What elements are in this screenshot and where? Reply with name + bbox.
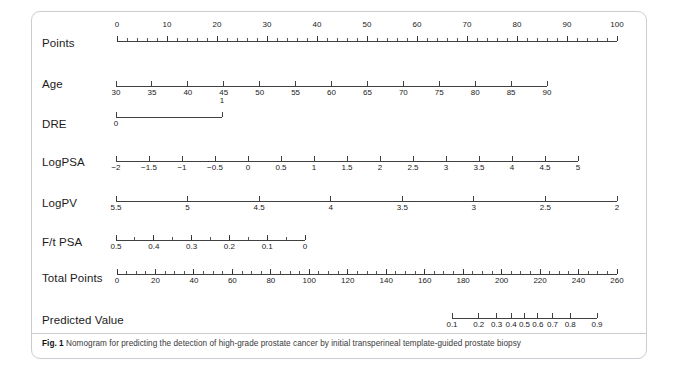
tick-label-points: 70 bbox=[463, 20, 472, 29]
nomogram-plot-area: Points0102030405060708090100Age303540455… bbox=[0, 0, 679, 374]
axis-logpv bbox=[0, 193, 679, 209]
axis-age bbox=[0, 78, 679, 94]
axis-predicted bbox=[0, 310, 679, 326]
figure-caption: Fig. 1 Nomogram for predicting the detec… bbox=[42, 339, 642, 348]
tick-label-points: 10 bbox=[163, 20, 172, 29]
tick-label-points: 0 bbox=[115, 20, 119, 29]
tick-label-points: 20 bbox=[213, 20, 222, 29]
figure-caption-number: Fig. 1 bbox=[42, 339, 64, 348]
axis-totalpoints bbox=[0, 266, 679, 282]
tick-label-points: 30 bbox=[263, 20, 272, 29]
figure-root: Points0102030405060708090100Age303540455… bbox=[0, 0, 679, 374]
tick-label-points: 80 bbox=[513, 20, 522, 29]
axis-dre bbox=[0, 109, 679, 125]
tick-label-points: 90 bbox=[563, 20, 572, 29]
figure-caption-text: Nomogram for predicting the detection of… bbox=[66, 339, 521, 348]
axis-logpsa bbox=[0, 153, 679, 169]
caption-divider bbox=[32, 333, 646, 334]
tick-label-points: 40 bbox=[313, 20, 322, 29]
tick-label-points: 100 bbox=[610, 20, 623, 29]
axis-ftpsa bbox=[0, 232, 679, 248]
tick-label-points: 50 bbox=[363, 20, 372, 29]
axis-points bbox=[0, 33, 679, 49]
tick-label-points: 60 bbox=[413, 20, 422, 29]
tick-label-dre: 1 bbox=[220, 96, 224, 105]
